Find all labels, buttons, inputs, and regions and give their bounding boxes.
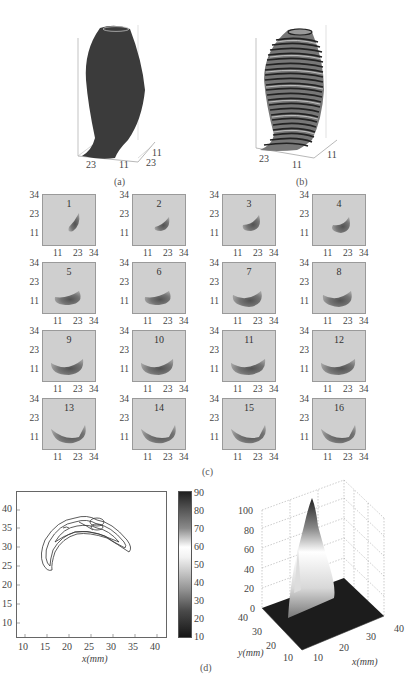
surface-y-tick: 20 [266, 641, 276, 651]
contour-x-tick: 15 [40, 642, 50, 652]
panel-x-tick: 11 [323, 384, 332, 394]
panel-x-tick: 23 [73, 248, 83, 258]
panel-x-tick: 23 [163, 384, 173, 394]
panel-y-tick: 23 [291, 209, 309, 219]
slice-panel-6: 6 [132, 262, 186, 314]
panel-x-tick: 34 [179, 316, 189, 326]
surface-y-tick: 40 [238, 613, 248, 623]
contour-x-label: x(mm) [82, 654, 108, 664]
panel-x-tick: 23 [253, 248, 263, 258]
panel-x-tick: 34 [359, 316, 369, 326]
panel-x-tick: 23 [163, 248, 173, 258]
slice-panel-5: 5 [42, 262, 96, 314]
contour-y-tick: 35 [2, 523, 12, 533]
slice-panel-4: 4 [312, 194, 366, 246]
panel-x-tick: 34 [89, 316, 99, 326]
contour-y-tick: 15 [2, 599, 12, 609]
slice-panel-9: 9 [42, 330, 96, 382]
panel-y-tick: 11 [111, 364, 129, 374]
caption-a: (a) [114, 176, 125, 187]
panel-y-tick: 23 [291, 277, 309, 287]
colorbar-tick: 50 [194, 560, 204, 570]
panel-y-tick: 23 [21, 413, 39, 423]
panel-y-tick: 34 [111, 326, 129, 336]
panel-x-tick: 23 [343, 248, 353, 258]
panel-y-tick: 11 [201, 228, 219, 238]
panel-y-tick: 23 [111, 413, 129, 423]
surface-y-label: y(mm) [238, 648, 264, 658]
panel-x-tick: 34 [89, 248, 99, 258]
panel-x-tick: 11 [53, 452, 62, 462]
panel-number: 7 [223, 266, 275, 277]
axis-tick: 23 [86, 160, 96, 170]
panel-y-tick: 23 [111, 277, 129, 287]
panel-y-tick: 34 [111, 258, 129, 268]
slice-panel-8: 8 [312, 262, 366, 314]
panel-x-tick: 34 [179, 384, 189, 394]
colorbar-tick: 80 [194, 506, 204, 516]
surface-y-tick: 10 [283, 653, 293, 663]
panel-y-tick: 11 [291, 364, 309, 374]
contour-x-tick: 35 [128, 642, 138, 652]
panel-y-tick: 23 [201, 345, 219, 355]
contour-x-tick: 20 [62, 642, 72, 652]
panel-y-tick: 11 [21, 432, 39, 442]
panel-y-tick: 11 [201, 364, 219, 374]
panel-x-tick: 11 [323, 248, 332, 258]
panel-x-tick: 34 [359, 452, 369, 462]
panel-y-tick: 34 [291, 394, 309, 404]
panel-x-tick: 23 [73, 452, 83, 462]
panel-y-tick: 11 [21, 296, 39, 306]
contour-x-tick: 30 [106, 642, 116, 652]
panel-y-tick: 11 [291, 228, 309, 238]
contour-y-tick: 25 [2, 561, 12, 571]
panel-y-tick: 11 [21, 228, 39, 238]
panel-x-tick: 11 [323, 316, 332, 326]
surface-y-tick: 30 [252, 627, 262, 637]
panel-x-tick: 23 [73, 384, 83, 394]
panel-y-tick: 34 [111, 190, 129, 200]
panel-y-tick: 34 [291, 258, 309, 268]
surface-x-tick: 20 [339, 643, 349, 653]
panel-x-tick: 11 [233, 384, 242, 394]
panel-x-tick: 11 [233, 316, 242, 326]
panel-y-tick: 34 [21, 326, 39, 336]
caption-d: (d) [200, 662, 212, 673]
panel-x-tick: 23 [253, 384, 263, 394]
panel-y-tick: 11 [111, 296, 129, 306]
panel-x-tick: 34 [89, 452, 99, 462]
colorbar-tick: 90 [194, 488, 204, 498]
panel-number: 4 [313, 198, 365, 209]
slice-panel-7: 7 [222, 262, 276, 314]
panel-y-tick: 34 [201, 258, 219, 268]
panel-y-tick: 11 [291, 432, 309, 442]
panel-number: 12 [313, 334, 365, 345]
panel-x-tick: 34 [179, 452, 189, 462]
panel-y-tick: 23 [21, 345, 39, 355]
panel-number: 6 [133, 266, 185, 277]
panel-x-tick: 34 [269, 316, 279, 326]
slice-panel-2: 2 [132, 194, 186, 246]
colorbar-tick: 10 [194, 632, 204, 642]
contour-plot-axes [16, 491, 167, 638]
surface-x-label: x(mm) [352, 657, 378, 667]
panel-x-tick: 23 [253, 316, 263, 326]
axis-tick: 23 [146, 158, 156, 168]
panel-number: 9 [43, 334, 95, 345]
panel-x-tick: 11 [143, 452, 152, 462]
contour-x-tick: 40 [150, 642, 160, 652]
panel-y-tick: 34 [111, 394, 129, 404]
panel-y-tick: 23 [21, 277, 39, 287]
contour-y-tick: 30 [2, 542, 12, 552]
panel-x-tick: 11 [53, 316, 62, 326]
contour-y-tick: 10 [2, 618, 12, 628]
panel-x-tick: 11 [53, 384, 62, 394]
panel-y-tick: 34 [201, 326, 219, 336]
panel-y-tick: 23 [201, 413, 219, 423]
panel-x-tick: 34 [269, 248, 279, 258]
colorbar-tick: 60 [194, 542, 204, 552]
colorbar-tick: 20 [194, 614, 204, 624]
panel-x-tick: 23 [343, 452, 353, 462]
surface-x-tick: 40 [394, 624, 404, 634]
axis-tick: 11 [292, 160, 302, 170]
